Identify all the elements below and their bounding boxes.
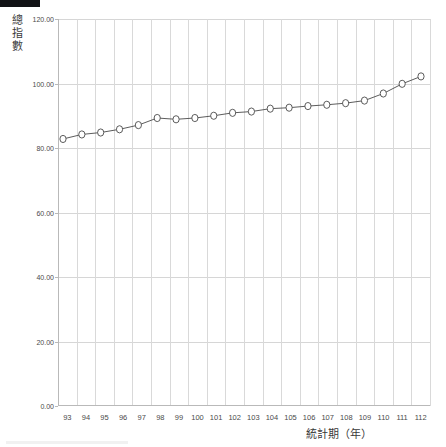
y-tick-label: 0.00 xyxy=(40,403,54,410)
data-point-marker[interactable] xyxy=(286,104,292,111)
data-point-marker[interactable] xyxy=(229,109,235,116)
x-tick-label: 103 xyxy=(247,413,260,422)
y-axis-title: 總 指 數 xyxy=(9,14,25,53)
y-axis-title-char-3: 數 xyxy=(9,40,25,53)
data-point-marker[interactable] xyxy=(79,131,85,138)
plot-area: 0.0020.0040.0060.0080.00100.00120.00 939… xyxy=(58,19,430,406)
x-axis-title: 統計期（年） xyxy=(306,425,372,441)
x-tick-label: 95 xyxy=(100,413,108,422)
series-total-index xyxy=(58,19,430,406)
x-tick-label: 101 xyxy=(210,413,223,422)
y-tick-mark xyxy=(55,406,58,407)
data-point-marker[interactable] xyxy=(305,102,311,109)
data-point-marker[interactable] xyxy=(324,101,330,108)
data-point-marker[interactable] xyxy=(380,90,386,97)
x-tick-label: 107 xyxy=(321,413,334,422)
data-point-marker[interactable] xyxy=(418,73,424,80)
x-tick-label: 93 xyxy=(63,413,71,422)
data-point-marker[interactable] xyxy=(173,116,179,123)
x-tick-label: 96 xyxy=(119,413,127,422)
x-tick-label: 108 xyxy=(340,413,353,422)
data-point-marker[interactable] xyxy=(98,129,104,136)
x-tick-label: 112 xyxy=(415,413,427,422)
data-point-marker[interactable] xyxy=(135,122,141,129)
y-axis-title-char-2: 指 xyxy=(9,27,25,40)
data-point-marker[interactable] xyxy=(60,135,66,142)
x-tick-label: 98 xyxy=(156,413,164,422)
y-tick-label: 20.00 xyxy=(36,338,54,345)
y-tick-label: 100.00 xyxy=(33,80,54,87)
x-tick-label: 105 xyxy=(284,413,297,422)
x-tick-label: 102 xyxy=(228,413,241,422)
y-tick-label: 60.00 xyxy=(36,209,54,216)
top-black-bar xyxy=(0,0,40,7)
y-tick-label: 40.00 xyxy=(36,274,54,281)
data-point-marker[interactable] xyxy=(192,114,198,121)
data-point-marker[interactable] xyxy=(154,114,160,121)
data-point-marker[interactable] xyxy=(116,126,122,133)
data-point-marker[interactable] xyxy=(248,108,254,115)
y-tick-label: 80.00 xyxy=(36,145,54,152)
footer-artifact xyxy=(6,441,128,444)
y-axis-title-char-1: 總 xyxy=(9,14,25,27)
x-tick-label: 100 xyxy=(191,413,204,422)
x-tick-label: 106 xyxy=(303,413,316,422)
x-tick-label: 110 xyxy=(378,413,390,422)
x-tick-label: 109 xyxy=(359,413,372,422)
x-tick-label: 99 xyxy=(175,413,183,422)
data-point-marker[interactable] xyxy=(399,80,405,87)
x-tick-label: 104 xyxy=(266,413,279,422)
data-point-marker[interactable] xyxy=(343,100,349,107)
data-point-marker[interactable] xyxy=(211,112,217,119)
data-point-marker[interactable] xyxy=(361,97,367,104)
x-tick-label: 111 xyxy=(396,413,407,422)
x-tick-label: 94 xyxy=(82,413,90,422)
x-tick-label: 97 xyxy=(138,413,146,422)
chart-page: 總 指 數 0.0020.0040.0060.0080.00100.00120.… xyxy=(0,0,446,447)
y-tick-label: 120.00 xyxy=(33,16,54,23)
gridline-vertical xyxy=(430,19,431,406)
data-point-marker[interactable] xyxy=(267,105,273,112)
